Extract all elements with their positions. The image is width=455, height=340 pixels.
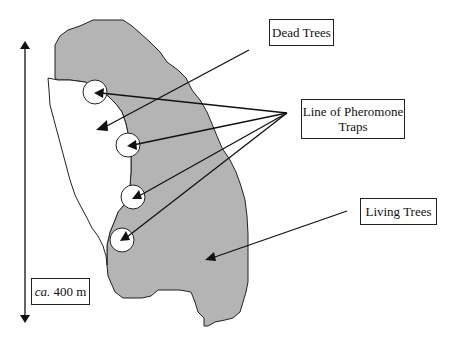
pheromone-text-line1: Line of Pheromone: [303, 104, 403, 119]
pheromone-traps-label: Line of Pheromone Traps: [301, 99, 405, 139]
scale-label: ca. 400 m: [31, 278, 90, 305]
scale-arrow-down-icon: [20, 315, 30, 323]
trap-circle: [121, 185, 145, 209]
pheromone-text-line2: Traps: [338, 119, 367, 134]
scale-arrow-up-icon: [20, 41, 30, 49]
scale-text: ca. 400 m: [35, 284, 87, 299]
living-trees-text: Living Trees: [365, 204, 431, 219]
scale-value: 400 m: [50, 284, 86, 299]
scale-prefix: ca.: [35, 284, 51, 299]
dead-trees-text: Dead Trees: [272, 25, 331, 40]
living-trees-label: Living Trees: [360, 198, 437, 225]
dead-trees-label: Dead Trees: [269, 19, 334, 46]
